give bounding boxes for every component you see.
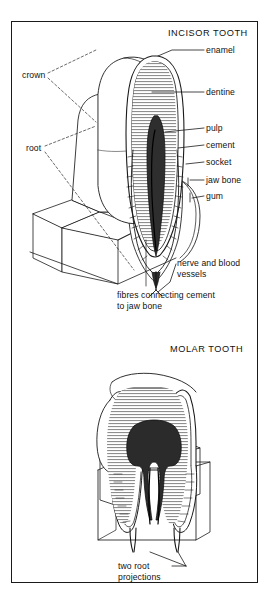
label-gum: gum: [206, 191, 223, 202]
molar-label-leaders: [150, 552, 186, 566]
label-fibres-connecting-cement-line2: to jaw bone: [117, 301, 162, 312]
label-crown: crown: [22, 70, 45, 81]
label-fibres-connecting-cement-line1: fibres connecting cement: [117, 290, 215, 301]
label-pulp: pulp: [206, 123, 223, 134]
label-jaw-bone: jaw bone: [206, 175, 241, 186]
label-nerve-and-blood-vessels-line2: vessels: [177, 269, 206, 280]
label-dentine: dentine: [206, 87, 235, 98]
molar-panel-title: MOLAR TOOTH: [170, 344, 243, 354]
label-root: root: [26, 143, 41, 154]
label-nerve-and-blood-vessels-line1: nerve and blood: [177, 258, 240, 269]
incisor-panel-title: INCISOR TOOTH: [168, 28, 248, 38]
label-cement: cement: [206, 140, 235, 151]
label-two-root-projections-line1: two root: [118, 561, 149, 572]
label-enamel: enamel: [206, 45, 235, 56]
label-socket: socket: [206, 157, 231, 168]
label-two-root-projections-line2: projections: [118, 572, 161, 583]
